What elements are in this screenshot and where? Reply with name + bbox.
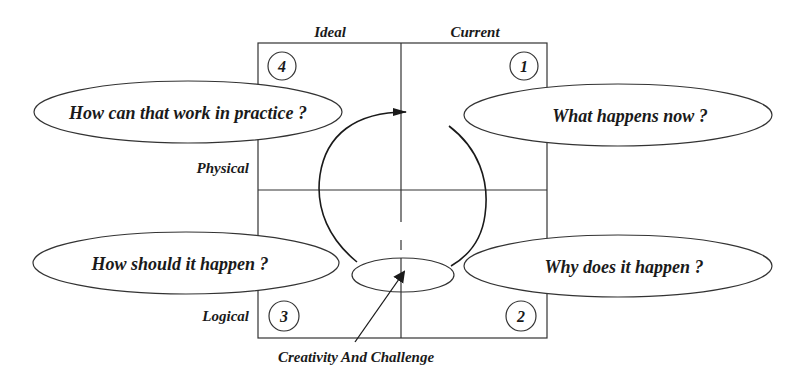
quadrant-number-4-text: 4: [277, 58, 286, 75]
question-4-text: How can that work in practice ?: [68, 103, 307, 123]
column-label-ideal: Ideal: [313, 24, 346, 40]
creativity-challenge-label: Creativity And Challenge: [278, 349, 434, 365]
question-bubble-1: What happens now ?: [464, 84, 772, 146]
question-1-text: What happens now ?: [552, 106, 708, 126]
quadrant-number-4: 4: [268, 52, 296, 80]
quadrant-number-1-text: 1: [520, 58, 528, 75]
diagram-canvas: 4 1 3 2 How can that work in practice ? …: [0, 0, 805, 386]
question-bubble-3: How should it happen ?: [33, 232, 339, 294]
center-ellipse: [352, 258, 454, 292]
question-2-text: Why does it happen ?: [544, 257, 703, 277]
question-3-text: How should it happen ?: [90, 254, 268, 274]
question-bubble-4: How can that work in practice ?: [34, 81, 342, 143]
quadrant-number-3-text: 3: [279, 308, 288, 325]
question-bubble-2: Why does it happen ?: [464, 235, 772, 297]
row-label-logical: Logical: [201, 308, 249, 324]
column-label-current: Current: [450, 24, 500, 40]
row-label-physical: Physical: [197, 160, 250, 176]
quadrant-number-1: 1: [510, 52, 538, 80]
quadrant-number-3: 3: [269, 301, 299, 331]
cycle-arc-right: [449, 126, 486, 266]
cycle-arc-left: [319, 112, 406, 262]
quadrant-number-2: 2: [506, 301, 536, 331]
quadrant-number-2-text: 2: [516, 308, 525, 325]
